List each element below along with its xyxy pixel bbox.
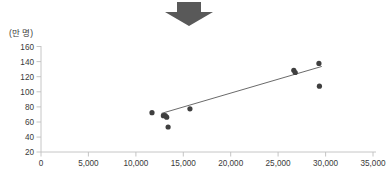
- x-tick-label: 30,000: [313, 159, 338, 168]
- y-tick-label: 60: [25, 118, 35, 127]
- x-axis-tick-labels: 0 5,000 10,000 15,000 20,000 25,000 30,0…: [39, 159, 386, 168]
- x-tick-label: 25,000: [266, 159, 291, 168]
- scatter-points-group: [149, 61, 322, 130]
- trend-line: [161, 66, 321, 113]
- scatter-plot: 160 140 120 100 80 60 40 20 0 5,000 10,0…: [0, 0, 386, 178]
- y-tick-label: 160: [20, 43, 34, 52]
- y-axis-tick-labels: 160 140 120 100 80 60 40 20: [20, 43, 34, 158]
- y-axis-ticks: [37, 47, 42, 153]
- x-tick-label: 0: [39, 159, 44, 168]
- x-tick-label: 5,000: [78, 159, 99, 168]
- scatter-point: [316, 61, 321, 66]
- scatter-point: [293, 70, 298, 75]
- y-tick-label: 120: [20, 73, 34, 82]
- x-tick-label: 35,000: [360, 159, 385, 168]
- scatter-point: [164, 115, 169, 120]
- x-tick-label: 10,000: [123, 159, 148, 168]
- scatter-point: [166, 124, 171, 129]
- y-tick-label: 40: [25, 133, 35, 142]
- y-tick-label: 140: [20, 58, 34, 67]
- x-axis-ticks: [41, 152, 373, 157]
- x-tick-label: 20,000: [218, 159, 243, 168]
- chart-figure: (만 명) 160 140 120 100 80 60 40 20: [0, 0, 386, 178]
- y-tick-label: 100: [20, 88, 34, 97]
- scatter-point: [317, 84, 322, 89]
- y-tick-label: 80: [25, 103, 35, 112]
- scatter-point: [187, 106, 192, 111]
- y-tick-label: 20: [25, 148, 35, 157]
- x-tick-label: 15,000: [171, 159, 196, 168]
- scatter-point: [149, 110, 154, 115]
